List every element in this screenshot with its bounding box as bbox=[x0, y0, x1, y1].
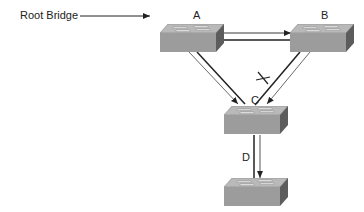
switch-a-label: A bbox=[193, 10, 200, 21]
switch-a-icon bbox=[160, 24, 224, 52]
switch-b-label: B bbox=[321, 10, 328, 21]
stp-diagram bbox=[0, 0, 364, 212]
blocked-port-x-icon bbox=[256, 72, 270, 84]
link-c-d-label: D bbox=[242, 152, 250, 163]
root-bridge-label: Root Bridge bbox=[20, 10, 78, 21]
link-a-c bbox=[189, 52, 245, 104]
switch-b-icon bbox=[290, 24, 354, 52]
switch-c-icon bbox=[224, 106, 288, 134]
link-a-b bbox=[223, 33, 291, 40]
link-c-d bbox=[254, 135, 260, 180]
switch-c-label: C bbox=[251, 95, 259, 106]
switch-d-icon bbox=[224, 178, 288, 206]
